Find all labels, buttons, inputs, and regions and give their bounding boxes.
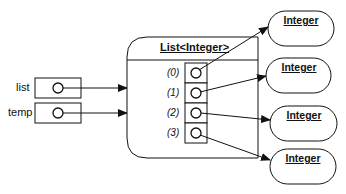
variable-label-list: list (16, 81, 29, 93)
index-label-2: (2) (167, 107, 179, 118)
reference-circle-icon (191, 128, 201, 138)
variable-label-temp: temp (8, 106, 32, 118)
index-label-0: (0) (167, 67, 179, 78)
reference-circle-icon (191, 88, 201, 98)
index-label-3: (3) (167, 127, 179, 138)
list-container (127, 37, 258, 158)
integer-label-1: Integer (266, 61, 332, 73)
integer-label-0: Integer (268, 14, 334, 26)
integer-label-3: Integer (270, 152, 336, 164)
reference-circle-icon (53, 108, 63, 118)
container-title: List<Integer> (160, 41, 229, 53)
index-label-1: (1) (167, 87, 179, 98)
integer-label-2: Integer (271, 109, 337, 121)
reference-circle-icon (191, 108, 201, 118)
reference-circle-icon (53, 83, 63, 93)
